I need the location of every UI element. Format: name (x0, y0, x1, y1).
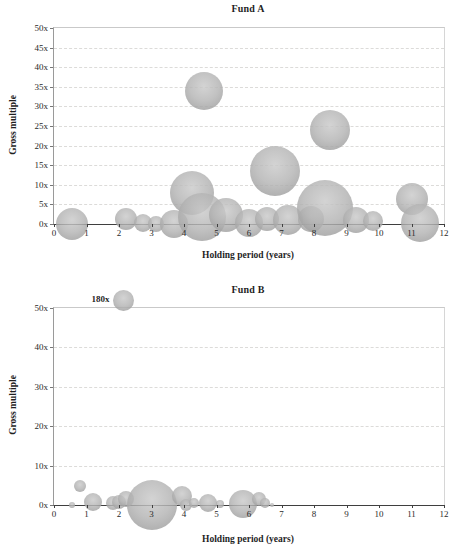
y-tick-mark (50, 204, 53, 205)
gridline (54, 48, 444, 49)
x-tick-label: 8 (302, 509, 326, 519)
gridline (54, 165, 444, 166)
data-bubble (260, 498, 270, 508)
x-tick-mark (444, 505, 445, 508)
x-tick-label: 12 (432, 228, 456, 238)
x-tick-mark (119, 505, 120, 508)
x-tick-mark (54, 224, 55, 227)
x-tick-mark (282, 224, 283, 227)
y-tick-mark (50, 67, 53, 68)
x-tick-label: 7 (270, 509, 294, 519)
x-tick-mark (54, 505, 55, 508)
y-tick-label: 5x (14, 199, 48, 209)
gridline (54, 67, 444, 68)
x-tick-mark (87, 224, 88, 227)
data-bubble (115, 208, 137, 230)
y-tick-mark (50, 87, 53, 88)
x-tick-label: 1 (75, 509, 99, 519)
x-tick-mark (217, 224, 218, 227)
x-axis-title: Holding period (years) (53, 250, 443, 260)
x-tick-label: 3 (140, 509, 164, 519)
y-tick-label: 10x (14, 461, 48, 471)
chart-title: Fund B (53, 284, 443, 295)
x-tick-label: 0 (42, 228, 66, 238)
data-bubble (250, 146, 300, 196)
gridline (54, 387, 444, 388)
x-tick-label: 6 (237, 509, 261, 519)
y-tick-label: 10x (14, 180, 48, 190)
x-tick-mark (282, 505, 283, 508)
gridline (54, 204, 444, 205)
gridline (54, 347, 444, 348)
y-tick-label: 40x (14, 62, 48, 72)
y-tick-mark (50, 165, 53, 166)
x-tick-label: 5 (205, 509, 229, 519)
x-tick-mark (314, 224, 315, 227)
x-tick-mark (412, 224, 413, 227)
x-tick-mark (249, 505, 250, 508)
y-tick-mark (50, 466, 53, 467)
data-bubble (270, 503, 274, 507)
x-tick-label: 9 (335, 509, 359, 519)
x-tick-mark (379, 224, 380, 227)
gridline (54, 185, 444, 186)
x-tick-label: 9 (335, 228, 359, 238)
y-tick-label: 35x (14, 82, 48, 92)
y-tick-mark (50, 185, 53, 186)
gridline (54, 146, 444, 147)
x-tick-label: 2 (107, 228, 131, 238)
x-tick-mark (347, 224, 348, 227)
x-tick-label: 4 (172, 509, 196, 519)
data-bubble (74, 480, 86, 492)
x-tick-label: 4 (172, 228, 196, 238)
gridline (54, 106, 444, 107)
data-bubble (185, 72, 223, 110)
y-tick-mark (50, 106, 53, 107)
x-tick-label: 1 (75, 228, 99, 238)
data-bubble (310, 110, 350, 150)
x-tick-label: 8 (302, 228, 326, 238)
x-tick-label: 12 (432, 509, 456, 519)
gridline (54, 87, 444, 88)
x-tick-label: 11 (400, 509, 424, 519)
x-tick-mark (119, 224, 120, 227)
plot-area: 0x10x20x30x40x50x0123456789101112180x (53, 307, 445, 506)
y-tick-label: 20x (14, 421, 48, 431)
y-tick-mark (50, 146, 53, 147)
y-tick-mark (50, 505, 53, 506)
gridline (54, 466, 444, 467)
fund-bubble-charts-figure: Fund A Gross multiple 0x5x10x15x20x25x30… (0, 0, 465, 558)
y-tick-mark (50, 48, 53, 49)
x-tick-label: 5 (205, 228, 229, 238)
y-tick-label: 25x (14, 121, 48, 131)
gridline (54, 126, 444, 127)
y-tick-mark (50, 308, 53, 309)
y-tick-mark (50, 347, 53, 348)
x-tick-mark (412, 505, 413, 508)
y-tick-label: 50x (14, 303, 48, 313)
y-tick-mark (50, 28, 53, 29)
y-tick-mark (50, 224, 53, 225)
x-tick-label: 6 (237, 228, 261, 238)
x-tick-mark (444, 224, 445, 227)
x-tick-label: 0 (42, 509, 66, 519)
x-tick-mark (347, 505, 348, 508)
plot-area: 0x5x10x15x20x25x30x35x40x45x50x012345678… (53, 27, 445, 225)
x-axis-title: Holding period (years) (53, 534, 443, 544)
x-tick-label: 3 (140, 228, 164, 238)
x-tick-mark (184, 224, 185, 227)
y-tick-label: 15x (14, 160, 48, 170)
outlier-bubble (113, 290, 134, 311)
chart-fund-b: Fund B Gross multiple 0x10x20x30x40x50x0… (0, 281, 465, 558)
y-tick-label: 50x (14, 23, 48, 33)
x-tick-mark (152, 505, 153, 508)
outlier-label: 180x (91, 294, 109, 305)
data-bubble (69, 502, 75, 508)
x-tick-mark (184, 505, 185, 508)
x-tick-mark (314, 505, 315, 508)
x-tick-label: 11 (400, 228, 424, 238)
chart-title: Fund A (53, 3, 443, 14)
x-tick-label: 10 (367, 509, 391, 519)
x-tick-mark (249, 224, 250, 227)
y-tick-label: 40x (14, 342, 48, 352)
